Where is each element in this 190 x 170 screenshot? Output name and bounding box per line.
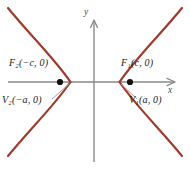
focus-right-label: F₁(c, 0) <box>121 58 153 68</box>
axis-group <box>8 20 175 162</box>
focus-left-label: F₂(−c, 0) <box>9 58 48 68</box>
focus-point-left <box>57 79 63 85</box>
x-axis-label: x <box>168 86 172 96</box>
hyperbola-figure: F₂(−c, 0) F₁(c, 0) V₂(−a, 0) V₁(a, 0) y … <box>0 0 190 170</box>
figure-canvas <box>0 0 190 170</box>
vertex-left-label: V₂(−a, 0) <box>2 95 42 105</box>
vertex-right-label: V₁(a, 0) <box>129 95 162 105</box>
focus-point-right <box>127 79 133 85</box>
y-axis-label: y <box>84 8 88 18</box>
